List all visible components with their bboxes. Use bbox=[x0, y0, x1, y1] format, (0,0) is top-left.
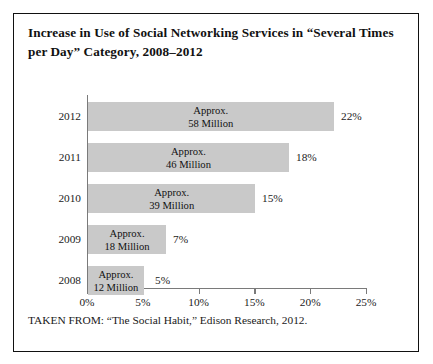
bar-percent-label: 18% bbox=[296, 151, 317, 163]
category-label: 2011 bbox=[14, 151, 81, 163]
bar-annotation-line-2: 18 Million bbox=[88, 240, 166, 253]
figure-title: Increase in Use of Social Networking Ser… bbox=[28, 24, 400, 61]
bar-value-annotation: Approx. 58 Million bbox=[88, 104, 334, 131]
x-tick-5 bbox=[366, 289, 367, 294]
bar-annotation-line-2: 46 Million bbox=[88, 158, 289, 171]
bar-annotation-line-1: Approx. bbox=[88, 186, 255, 199]
category-label: 2012 bbox=[14, 110, 81, 122]
bar-annotation-line-2: 39 Million bbox=[88, 199, 255, 212]
x-tick-3 bbox=[254, 289, 255, 294]
bar-annotation-line-1: Approx. bbox=[88, 104, 334, 117]
bar-chart: 0% 5% 10% 15% 20% 25% 2012 Approx. 58 Mi… bbox=[14, 76, 418, 302]
x-tick-label-1: 5% bbox=[121, 296, 165, 308]
bar-percent-label: 15% bbox=[262, 192, 283, 204]
x-tick-label-0: 0% bbox=[65, 296, 109, 308]
bar-value-annotation: Approx. 39 Million bbox=[88, 186, 255, 213]
bar-annotation-line-1: Approx. bbox=[88, 268, 144, 281]
category-label: 2010 bbox=[14, 192, 81, 204]
source-attribution: TAKEN FROM: “The Social Habit,” Edison R… bbox=[28, 314, 406, 326]
bar-annotation-line-2: 12 Million bbox=[88, 281, 144, 294]
bar-annotation-line-1: Approx. bbox=[88, 227, 166, 240]
bar-annotation-line-1: Approx. bbox=[88, 145, 289, 158]
bar-percent-label: 7% bbox=[173, 233, 188, 245]
bar-value-annotation: Approx. 12 Million bbox=[88, 268, 144, 295]
figure-frame: Increase in Use of Social Networking Ser… bbox=[13, 13, 419, 352]
x-tick-2 bbox=[199, 289, 200, 294]
x-tick-label-2: 10% bbox=[177, 296, 221, 308]
category-label: 2008 bbox=[14, 274, 81, 286]
plot-region: 0% 5% 10% 15% 20% 25% 2012 Approx. 58 Mi… bbox=[14, 76, 418, 302]
x-tick-4 bbox=[310, 289, 311, 294]
bar-percent-label: 22% bbox=[341, 110, 362, 122]
x-tick-label-4: 20% bbox=[288, 296, 332, 308]
bar-annotation-line-2: 58 Million bbox=[88, 117, 334, 130]
x-tick-label-5: 25% bbox=[344, 296, 388, 308]
bar-value-annotation: Approx. 18 Million bbox=[88, 227, 166, 254]
category-label: 2009 bbox=[14, 233, 81, 245]
x-tick-label-3: 15% bbox=[232, 296, 276, 308]
bar-value-annotation: Approx. 46 Million bbox=[88, 145, 289, 172]
bar-percent-label: 5% bbox=[155, 274, 170, 286]
